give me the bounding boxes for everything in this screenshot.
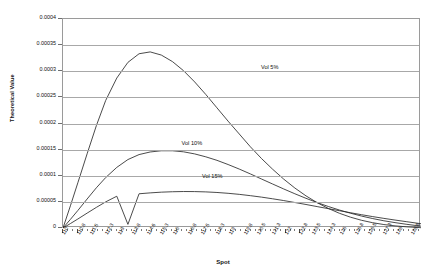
x-minor-tick-mark [210,229,211,231]
x-tick-label: 128 [395,226,404,236]
y-tick-label: 0.0004 [40,15,57,20]
chart-container: Theoretical Value 00.000050.00010.000150… [0,0,446,275]
y-tick-label: 0.0001 [40,172,57,177]
x-minor-tick-mark [87,229,88,231]
x-tick-label: 125 [339,226,348,236]
y-tick-label: 0.00025 [37,94,57,99]
x-minor-tick-mark [379,229,380,231]
x-minor-tick-mark [181,229,182,231]
gridline-horizontal [63,150,419,151]
x-axis-title: Spot [0,259,446,265]
y-tick-label: 0.0003 [40,68,57,73]
x-minor-tick-mark [225,229,226,231]
gridline-horizontal [63,202,419,203]
y-tick-label: 0.00015 [37,146,57,151]
x-minor-tick-mark [334,229,335,231]
series-annotation: Vol 10% [182,140,203,146]
x-minor-tick-mark [265,229,266,231]
x-minor-tick-mark [364,229,365,231]
x-minor-tick-mark [102,229,103,231]
x-minor-tick-mark [403,229,404,231]
gridline-horizontal [63,124,419,125]
x-minor-tick-mark [196,229,197,231]
y-tick-label: 0.00035 [37,41,57,46]
x-minor-tick-mark [294,229,295,231]
x-minor-tick-mark [349,229,350,231]
y-tick-label: 0.0002 [40,120,57,125]
y-tick-label: 0.00005 [37,198,57,203]
gridline-horizontal [63,97,419,98]
x-minor-tick-mark [156,229,157,231]
x-minor-tick-mark [141,229,142,231]
x-minor-tick-mark [126,229,127,231]
x-tick-label: 110 [61,226,69,235]
x-minor-tick-mark [280,229,281,231]
x-tick-label: 116 [172,226,180,235]
gridline-horizontal [63,176,419,177]
x-minor-tick-mark [319,229,320,231]
x-minor-tick-mark [418,229,419,231]
series-annotation: Vol 15% [202,173,223,179]
series-annotation: Vol 5% [261,64,278,70]
x-tick-label: 122 [284,226,293,236]
x-tick-label: 119 [228,226,236,235]
plot-area [62,18,420,227]
x-axis: 110110.8111.5112.3113113.8114.6115.31161… [0,229,446,261]
x-minor-tick-mark [240,229,241,231]
gridline-horizontal [63,71,419,72]
x-tick-label: 113 [117,226,125,235]
x-minor-tick-mark [72,229,73,231]
series-line [63,151,421,228]
gridline-horizontal [63,45,419,46]
series-line [63,192,421,228]
